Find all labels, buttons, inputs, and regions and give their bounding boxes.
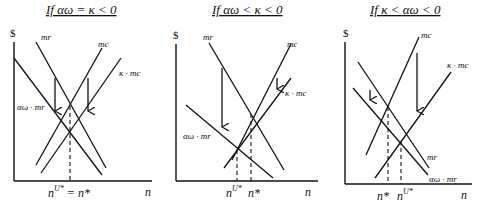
panel-1-mc-curve (36, 48, 102, 165)
panel-3-kappa-mc-curve (375, 72, 451, 178)
panel-3-x-mark-nstar: n* (377, 189, 389, 203)
panel-1: If αω = κ < 0 $ n mr αω · mr mc κ · mc n… (10, 2, 152, 200)
panel-2-x-axis-label: n (305, 185, 311, 199)
panel-3-x-mark-nu: nU* (397, 187, 413, 203)
panel-2-title: If αω < κ < 0 (211, 2, 283, 17)
panel-1-x-axis-label: n (145, 185, 151, 199)
panel-2-mr-curve (209, 43, 284, 170)
panel-1-y-axis-label: $ (10, 27, 16, 39)
panel-2-mc-label: mc (287, 39, 298, 49)
panel-1-mc-label: mc (98, 39, 109, 49)
panel-2-y-axis-label: $ (173, 29, 179, 41)
panel-3-aw-mr-label: αω · mr (429, 174, 457, 184)
panel-2-kappa-mc-curve (224, 78, 291, 168)
panel-3-mc-curve (366, 37, 419, 155)
panel-2-aw-mr-curve (186, 105, 273, 178)
figure-three-panels: If αω = κ < 0 $ n mr αω · mr mc κ · mc n… (0, 0, 484, 210)
panel-1-kappa-mc-label: κ · mc (119, 68, 141, 78)
panel-3-mr-label: mr (427, 152, 437, 162)
panel-3-kappa-mc-label: κ · mc (447, 60, 469, 70)
panel-2-mc-curve (232, 44, 291, 160)
panel-2-x-mark-nu: nU* (226, 184, 242, 200)
panel-2-mr-label: mr (203, 32, 213, 42)
panel-1-x-mark: nU* = n* (48, 184, 90, 200)
panel-3-y-axis-label: $ (343, 27, 349, 39)
panel-3-title: If κ < αω < 0 (369, 2, 441, 17)
panel-1-title: If αω = κ < 0 (45, 2, 117, 17)
panel-2-x-mark-nstar: n* (248, 186, 260, 200)
panel-1-aw-mr-label: αω · mr (17, 102, 45, 112)
panel-1-mr-curve (36, 42, 106, 168)
panel-2: If αω < κ < 0 $ n mr mc κ · mc αω · mr n… (173, 2, 318, 200)
panel-1-mr-label: mr (41, 32, 51, 42)
panel-3-mc-label: mc (421, 30, 432, 40)
panel-1-aw-mr-curve (14, 58, 102, 175)
panel-1-kappa-mc-curve (41, 58, 121, 173)
panel-2-kappa-mc-label: κ · mc (285, 88, 307, 98)
panel-2-aw-mr-label: αω · mr (183, 131, 211, 141)
panel-3: If κ < αω < 0 $ n mc κ · mc mr αω · mr n… (343, 2, 472, 203)
panel-3-x-axis-label: n (461, 188, 467, 202)
